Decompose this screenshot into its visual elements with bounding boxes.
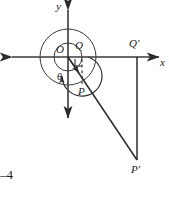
point-label-Q: Q (75, 40, 83, 51)
figure-canvas: y x O Q P Q' P' θ –4 (0, 0, 169, 199)
x-axis-label: x (160, 57, 165, 68)
angle-label-theta: θ (57, 72, 62, 82)
point-label-O: O (56, 44, 64, 55)
y-axis-label: y (56, 1, 61, 12)
point-label-P-prime: P' (131, 164, 140, 175)
geometry-diagram (0, 0, 169, 199)
point-label-Q-prime: Q' (129, 38, 139, 49)
page-marker: –4 (0, 168, 13, 181)
point-label-P: P (78, 86, 85, 97)
